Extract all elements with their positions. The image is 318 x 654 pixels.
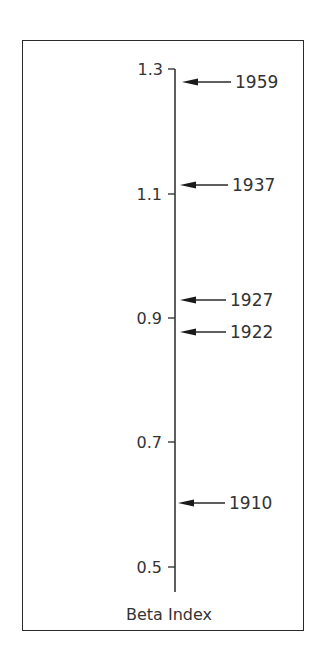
marker-1959: 1959 bbox=[182, 72, 278, 92]
tick-1.1: 1.1 bbox=[137, 185, 175, 204]
tick-0.9: 0.9 bbox=[137, 309, 175, 328]
tick-label: 0.7 bbox=[137, 433, 162, 452]
year-label: 1937 bbox=[232, 175, 275, 195]
tick-0.7: 0.7 bbox=[137, 433, 175, 452]
marker-1910: 1910 bbox=[178, 493, 272, 513]
tick-0.5: 0.5 bbox=[137, 558, 175, 577]
marker-1937: 1937 bbox=[180, 175, 275, 195]
year-label: 1910 bbox=[229, 493, 272, 513]
arrowhead-icon bbox=[180, 329, 196, 336]
tick-label: 0.9 bbox=[137, 309, 162, 328]
arrowhead-icon bbox=[178, 500, 194, 507]
marker-1927: 1927 bbox=[180, 290, 273, 310]
marker-1922: 1922 bbox=[180, 322, 273, 342]
beta-index-chart: 1.3 1.1 0.9 0.7 0.5 1959 1937 1927 1922 bbox=[0, 0, 318, 654]
tick-label: 0.5 bbox=[137, 558, 162, 577]
tick-1.3: 1.3 bbox=[138, 60, 163, 79]
arrowhead-icon bbox=[180, 182, 196, 189]
arrowhead-icon bbox=[180, 297, 196, 304]
tick-label: 1.1 bbox=[137, 185, 162, 204]
year-label: 1922 bbox=[230, 322, 273, 342]
year-label: 1927 bbox=[230, 290, 273, 310]
year-label: 1959 bbox=[235, 72, 278, 92]
tick-label: 1.3 bbox=[138, 60, 163, 79]
axis-title: Beta Index bbox=[126, 605, 212, 624]
arrowhead-icon bbox=[182, 79, 198, 86]
